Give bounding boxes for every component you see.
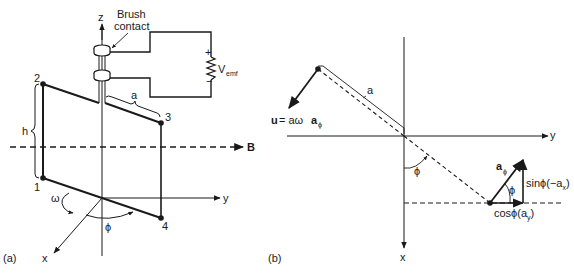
brush-label-line1: Brush bbox=[117, 8, 146, 20]
lower-slip-ring bbox=[94, 70, 110, 81]
loop-arm-upper-dashed bbox=[318, 69, 404, 136]
conductor-outline bbox=[318, 66, 404, 134]
h-label: h bbox=[22, 125, 28, 137]
velocity-vector-u bbox=[289, 69, 318, 108]
corner-3-dot bbox=[158, 120, 164, 126]
corner-1-dot bbox=[40, 175, 46, 181]
u-label: u bbox=[271, 114, 278, 126]
vemf-plus: + bbox=[205, 46, 211, 58]
corner-4-label: 4 bbox=[162, 220, 168, 232]
sin-label-main: sinϕ(−a bbox=[526, 177, 563, 189]
conductor-shaft-to-3 bbox=[105, 103, 161, 123]
y-axis-label: y bbox=[223, 192, 229, 204]
phi-angle-arc bbox=[86, 212, 133, 218]
b-x-axis-label: x bbox=[400, 251, 406, 263]
vemf-label: V bbox=[218, 63, 226, 75]
omega-rotation-arrow bbox=[62, 193, 73, 213]
figure-b: x y a u = aω a ϕ ϕ a ϕ bbox=[268, 37, 570, 264]
corner-2-dot bbox=[40, 81, 46, 87]
sin-label-close: ) bbox=[566, 177, 570, 189]
vemf-subscript: emf bbox=[226, 70, 238, 77]
h-brace bbox=[31, 84, 39, 178]
brush-label-line2: contact bbox=[114, 20, 149, 32]
brush-pointer-arrow bbox=[112, 33, 128, 48]
a-phi-vector bbox=[490, 160, 523, 203]
corner-3-label: 3 bbox=[165, 111, 171, 123]
lower-wire bbox=[110, 78, 211, 97]
panel-label-a: (a) bbox=[3, 252, 16, 264]
b-field-label: B bbox=[247, 141, 255, 153]
panel-label-b: (b) bbox=[268, 252, 281, 264]
u-vector: a bbox=[311, 114, 318, 126]
b-y-axis-label: y bbox=[550, 129, 556, 141]
triangle-phi-label: ϕ bbox=[509, 184, 515, 196]
sin-label: sinϕ(−ax) bbox=[526, 177, 570, 191]
vemf-minus: − bbox=[206, 75, 212, 87]
figure-a: B z Brush contact + − V emf bbox=[3, 8, 255, 264]
diagram-canvas: B z Brush contact + − V emf bbox=[0, 0, 574, 273]
x-axis bbox=[54, 198, 102, 253]
cos-label: cosϕ(ay) bbox=[494, 207, 534, 222]
b-a-label: a bbox=[367, 84, 374, 96]
a-phi-label: a bbox=[496, 160, 503, 172]
b-phi-label: ϕ bbox=[414, 165, 420, 177]
omega-label: ω bbox=[51, 192, 60, 204]
corner-1-label: 1 bbox=[34, 181, 40, 193]
conductor-2-to-shaft bbox=[43, 84, 99, 103]
cos-label-main: cosϕ(a bbox=[494, 207, 528, 219]
z-axis-label: z bbox=[98, 11, 104, 23]
x-axis-label: x bbox=[42, 252, 48, 264]
cos-label-close: ) bbox=[531, 207, 535, 219]
a-label: a bbox=[131, 89, 138, 101]
u-vector-sub: ϕ bbox=[318, 121, 322, 129]
corner-2-label: 2 bbox=[34, 72, 40, 84]
phi-label: ϕ bbox=[105, 221, 111, 233]
a-phi-sub: ϕ bbox=[503, 168, 507, 176]
u-equation: = aω bbox=[279, 114, 304, 126]
upper-slip-ring bbox=[94, 45, 110, 56]
